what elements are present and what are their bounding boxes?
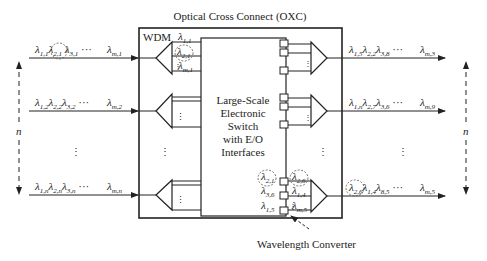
ellipsis-mux: ⋮ bbox=[318, 146, 328, 157]
converter bbox=[280, 192, 288, 199]
svg-text:λm,5: λm,5 bbox=[291, 199, 308, 214]
svg-text:with E/O: with E/O bbox=[223, 133, 263, 145]
svg-text:λ2,1: λ2,1 bbox=[176, 45, 191, 60]
converter bbox=[280, 121, 288, 128]
svg-text:λ2,6: λ2,6 bbox=[291, 170, 306, 185]
n-indicator-right: n bbox=[463, 62, 469, 194]
svg-text:λ3,6: λ3,6 bbox=[260, 184, 275, 199]
ellipsis-inputs: ⋮ bbox=[71, 146, 81, 157]
svg-text:λ1,nλ2,nλ3,n ···: λ1,nλ2,nλ3,n ··· bbox=[34, 180, 89, 195]
svg-text:⋮: ⋮ bbox=[304, 59, 312, 68]
svg-text:λ2,1: λ2,1 bbox=[260, 170, 275, 185]
svg-text:λ1,nλ2,7λ3,6 ···: λ1,nλ2,7λ3,6 ··· bbox=[348, 96, 403, 111]
svg-text:Electronic: Electronic bbox=[220, 107, 265, 119]
demux-n: ⋮ bbox=[156, 180, 201, 210]
svg-text:λm,3: λm,3 bbox=[419, 43, 436, 58]
mux-2: ⋮ bbox=[280, 94, 327, 128]
svg-text:Interfaces: Interfaces bbox=[221, 146, 264, 158]
mux-1: ⋮ bbox=[280, 40, 327, 74]
svg-text:λ1,1: λ1,1 bbox=[177, 30, 192, 45]
demux-2: ⋮ bbox=[156, 94, 201, 128]
converter bbox=[280, 94, 288, 101]
svg-text:Switch: Switch bbox=[228, 120, 259, 132]
svg-text:λm,n: λm,n bbox=[106, 180, 123, 195]
svg-text:λm,5: λm,5 bbox=[419, 181, 436, 196]
svg-text:n: n bbox=[463, 125, 469, 137]
wavelength-converter bbox=[280, 207, 288, 214]
converter bbox=[280, 67, 288, 74]
ellipsis-outputs: ⋮ bbox=[398, 146, 408, 157]
input-1-label: λ1,1λ2,1 λ3,1 ··· λm,1 bbox=[34, 43, 122, 59]
svg-text:n: n bbox=[16, 125, 22, 137]
output-2-label: λ1,nλ2,7λ3,6 ··· λm,9 bbox=[348, 96, 436, 111]
svg-text:⋮: ⋮ bbox=[176, 195, 185, 205]
oxc-diagram: Optical Cross Connect (OXC) WDM Large-Sc… bbox=[0, 0, 487, 261]
bottom-switch-output-labels: λ2,1 λ3,6 λ1,5 bbox=[258, 170, 276, 214]
wdm-label: WDM bbox=[143, 31, 171, 43]
input-2-label: λ1,2λ2,2λ3,2 ··· λm,2 bbox=[34, 96, 123, 111]
svg-text:λ1,4: λ1,4 bbox=[291, 184, 306, 199]
demux-1-channel-labels: λ1,1 λ2,1 ⋮ λm,1 bbox=[174, 30, 193, 74]
converter bbox=[280, 40, 288, 47]
svg-text:λm,2: λm,2 bbox=[106, 96, 123, 111]
svg-text:λ1,1λ2,1 λ3,1 ···: λ1,1λ2,1 λ3,1 ··· bbox=[34, 43, 92, 58]
svg-text:λ1,5: λ1,5 bbox=[260, 199, 275, 214]
switch-label: Large-Scale Electronic Switch with E/O I… bbox=[217, 94, 270, 158]
converter bbox=[280, 178, 288, 185]
svg-text:λ2,6λ1,4λ8,5 ···: λ2,6λ1,4λ8,5 ··· bbox=[348, 181, 403, 196]
converter bbox=[280, 103, 288, 110]
output-1-label: λ1,5λ2,2λ3,8 ··· λm,3 bbox=[348, 43, 436, 58]
input-n-label: λ1,nλ2,nλ3,n ··· λm,n bbox=[34, 180, 123, 195]
svg-text:λ1,2λ2,2λ3,2 ···: λ1,2λ2,2λ3,2 ··· bbox=[34, 96, 89, 111]
svg-text:λ1,5λ2,2λ3,8 ···: λ1,5λ2,2λ3,8 ··· bbox=[348, 43, 403, 58]
ellipsis-demux: ⋮ bbox=[160, 146, 170, 157]
svg-text:λm,9: λm,9 bbox=[419, 96, 436, 111]
svg-text:⋮: ⋮ bbox=[304, 113, 312, 122]
svg-text:λm,1: λm,1 bbox=[106, 43, 122, 58]
output-n-label: λ2,6λ1,4λ8,5 ··· λm,5 bbox=[346, 180, 436, 196]
converter-label: Wavelength Converter bbox=[257, 238, 356, 250]
n-indicator-left: n bbox=[16, 62, 22, 194]
diagram-title: Optical Cross Connect (OXC) bbox=[174, 10, 307, 23]
converter bbox=[280, 49, 288, 56]
svg-text:Large-Scale: Large-Scale bbox=[217, 94, 270, 106]
svg-text:⋮: ⋮ bbox=[176, 112, 185, 122]
bottom-mux-input-labels: λ2,6 λ1,4 ⋮ λm,5 bbox=[289, 170, 308, 214]
